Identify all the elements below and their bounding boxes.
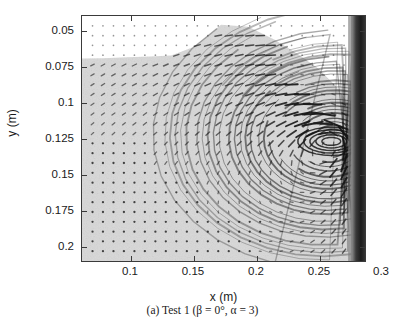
streak-vector xyxy=(270,171,271,175)
streak-dot xyxy=(144,230,146,232)
ytick-mark xyxy=(82,67,87,68)
streak-dot xyxy=(196,181,198,183)
streak-dot xyxy=(91,211,93,213)
streak-dot xyxy=(196,221,198,223)
streak-dot xyxy=(322,25,324,27)
streak-dot xyxy=(144,211,146,213)
streak-dot xyxy=(123,172,125,174)
streak-dot xyxy=(133,221,135,223)
streak-dot xyxy=(102,142,104,144)
ytick-label: 0.2 xyxy=(26,240,74,252)
streak-dot xyxy=(112,221,114,223)
streak-dot xyxy=(133,211,135,213)
streak-dot xyxy=(196,25,198,27)
streak-dot xyxy=(186,45,188,47)
xtick-mark xyxy=(257,256,258,261)
streak-dot xyxy=(123,240,125,242)
streak-dot xyxy=(196,191,198,193)
streak-dot xyxy=(333,35,335,37)
streak-dot xyxy=(154,172,156,174)
ytick-label: 0.05 xyxy=(26,24,74,36)
streak-dot xyxy=(165,201,167,203)
streak-dot xyxy=(165,221,167,223)
streak-dot xyxy=(112,142,114,144)
streak-dot xyxy=(175,25,177,27)
xtick-label: 0.3 xyxy=(373,265,389,277)
streak-dot xyxy=(133,142,135,144)
x-axis-label: x (m) xyxy=(81,290,366,304)
streak-dot xyxy=(154,221,156,223)
streak-dot xyxy=(134,25,136,27)
ytick-mark xyxy=(82,211,87,212)
streak-vector xyxy=(300,182,303,183)
streak-dot xyxy=(123,211,125,213)
streak-dot xyxy=(217,25,219,27)
streak-dot xyxy=(196,250,198,252)
streak-dot xyxy=(112,230,114,232)
streak-dot xyxy=(91,142,93,144)
ytick-mark xyxy=(82,247,87,248)
streak-vector xyxy=(256,45,265,46)
streak-dot xyxy=(343,25,345,27)
ytick-mark xyxy=(82,31,87,32)
streak-dot xyxy=(123,142,125,144)
streak-dot xyxy=(301,45,303,47)
streak-dot xyxy=(259,25,261,27)
streak-dot xyxy=(280,25,282,27)
streak-dot xyxy=(217,250,219,252)
streak-dot xyxy=(249,250,251,252)
streak-dot xyxy=(133,162,135,164)
streak-dot xyxy=(165,230,167,232)
plot-area xyxy=(81,15,366,262)
streak-dot xyxy=(228,250,230,252)
streak-dot xyxy=(155,25,157,27)
streak-field xyxy=(82,16,365,261)
xtick-label: 0.15 xyxy=(182,265,204,277)
xtick-mark xyxy=(320,16,321,21)
streak-dot xyxy=(291,25,293,27)
streak-dot xyxy=(123,152,125,154)
streak-dot xyxy=(92,45,94,47)
streak-dot xyxy=(154,191,156,193)
streak-vector xyxy=(280,212,282,213)
streak-dot xyxy=(144,162,146,164)
streak-dot xyxy=(186,230,188,232)
streak-dot xyxy=(133,181,135,183)
streak-dot xyxy=(123,250,125,252)
streak-dot xyxy=(102,240,104,242)
streak-dot xyxy=(144,221,146,223)
ytick-label: 0.125 xyxy=(26,132,74,144)
streak-dot xyxy=(270,25,272,27)
figure-caption: (a) Test 1 (β = 0°, α = 3) xyxy=(0,304,405,316)
streak-dot xyxy=(217,230,219,232)
streak-dot xyxy=(175,230,177,232)
streak-vector xyxy=(290,231,293,232)
streak-dot xyxy=(102,181,104,183)
ytick-label: 0.175 xyxy=(26,204,74,216)
streak-dot xyxy=(196,172,198,174)
xtick-mark xyxy=(257,16,258,21)
streak-dot xyxy=(102,201,104,203)
xtick-label: 0.25 xyxy=(308,265,330,277)
streak-dot xyxy=(91,152,93,154)
streak-dot xyxy=(91,181,93,183)
streak-dot xyxy=(175,35,177,37)
streak-dot xyxy=(280,35,282,37)
streak-dot xyxy=(165,54,167,56)
streak-dot xyxy=(165,250,167,252)
streak-dot xyxy=(343,35,345,37)
ytick-label: 0.1 xyxy=(26,96,74,108)
streak-dot xyxy=(112,162,114,164)
streak-dot xyxy=(112,211,114,213)
streak-dot xyxy=(175,191,177,193)
streak-dot xyxy=(112,201,114,203)
streak-dot xyxy=(102,54,104,56)
streak-dot xyxy=(112,240,114,242)
streak-dot xyxy=(134,35,136,37)
streak-dot xyxy=(207,250,209,252)
streak-dot xyxy=(144,152,146,154)
streak-dot xyxy=(112,250,114,252)
streak-dot xyxy=(175,250,177,252)
streak-dot xyxy=(175,211,177,213)
streak-dot xyxy=(207,25,209,27)
